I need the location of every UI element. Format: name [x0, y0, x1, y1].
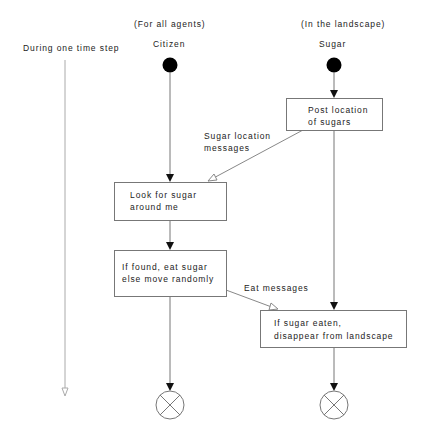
time-axis [62, 60, 68, 396]
time-step-label: During one time step [23, 42, 119, 54]
sugar-lane-title: Sugar [319, 38, 346, 50]
sugar-lane-qualifier: (In the landscape) [301, 18, 385, 30]
citizen-lane-qualifier: (For all agents) [134, 18, 206, 30]
citizen-final-node [156, 391, 184, 419]
sugar-initial-node [327, 58, 342, 73]
sugar-final-node [320, 391, 348, 419]
activity-text: If found, eat sugar [122, 261, 208, 273]
citizen-flow [156, 58, 184, 420]
activity-text: else move randomly [122, 273, 214, 285]
activity-text: disappear from landscape [274, 330, 393, 342]
activity-post-location: Post location of sugars [286, 98, 383, 131]
sugar-location-message-label-line2: messages [204, 142, 250, 154]
activity-text: around me [130, 201, 179, 213]
sugar-location-message-label-line1: Sugar location [204, 130, 271, 142]
activity-look-for-sugar: Look for sugar around me [114, 182, 227, 221]
activity-text: Post location [308, 104, 368, 116]
citizen-initial-node [163, 58, 178, 73]
activity-disappear: If sugar eaten, disappear from landscape [260, 310, 407, 348]
activity-text: of sugars [308, 116, 351, 128]
activity-eat-or-move: If found, eat sugar else move randomly [114, 250, 227, 297]
eat-message-label: Eat messages [244, 282, 309, 294]
citizen-lane-title: Citizen [153, 38, 185, 50]
activity-text: Look for sugar [130, 189, 197, 201]
activity-text: If sugar eaten, [274, 317, 342, 329]
